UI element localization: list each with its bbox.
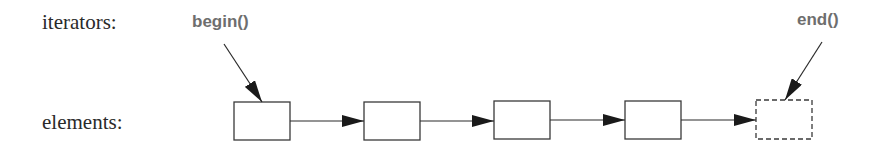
past-the-end-box (756, 100, 812, 139)
end-pointer-arrow (785, 42, 822, 100)
sequence-diagram (0, 0, 894, 150)
begin-pointer-arrow (224, 44, 262, 102)
element-box-2 (494, 101, 550, 139)
element-box-0 (234, 102, 290, 140)
element-box-1 (364, 102, 420, 140)
element-box-3 (625, 101, 681, 139)
